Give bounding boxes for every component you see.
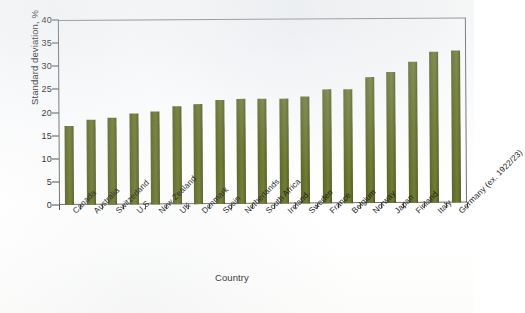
y-tick-label: 10 bbox=[26, 154, 52, 164]
bar-slot bbox=[251, 19, 274, 204]
bar-slot bbox=[358, 18, 381, 203]
bar-slot bbox=[401, 18, 424, 203]
bar-slot bbox=[273, 19, 296, 204]
bar bbox=[387, 72, 397, 203]
bar-slot bbox=[423, 18, 446, 203]
bar bbox=[65, 126, 74, 205]
bar-series bbox=[58, 18, 467, 205]
x-tick-label: Germany (ex. 1922/23) bbox=[457, 148, 524, 215]
bar-slot bbox=[337, 18, 360, 203]
bar-slot bbox=[208, 19, 231, 204]
y-tick-label: 20 bbox=[26, 108, 52, 118]
y-tick-label: 5 bbox=[26, 177, 52, 187]
bar-slot bbox=[230, 19, 253, 204]
bar bbox=[365, 77, 375, 203]
x-axis-tick-labels: CanadaAustraliaSwitzerlandU.S.New Zealan… bbox=[59, 209, 474, 309]
bar-slot bbox=[316, 18, 339, 203]
bar-slot bbox=[79, 20, 102, 205]
y-axis-tick-labels: 0510152025303540 bbox=[22, 0, 52, 313]
bar-slot bbox=[294, 18, 317, 203]
bar-slot bbox=[165, 19, 188, 204]
bar-slot bbox=[444, 18, 467, 203]
y-tick-label: 40 bbox=[26, 15, 52, 25]
bar-slot bbox=[380, 18, 403, 203]
y-tick-label: 15 bbox=[26, 131, 52, 141]
bar bbox=[236, 99, 246, 204]
bar bbox=[429, 51, 439, 202]
y-tick-label: 25 bbox=[26, 84, 52, 94]
bar bbox=[301, 97, 311, 204]
bar bbox=[151, 111, 161, 204]
y-tick-label: 30 bbox=[26, 61, 52, 71]
y-tick-label: 0 bbox=[26, 200, 52, 210]
bar-slot bbox=[122, 19, 145, 204]
y-tick-label: 35 bbox=[26, 38, 52, 48]
x-axis-title: Country bbox=[215, 272, 249, 283]
bar bbox=[451, 51, 461, 203]
bar bbox=[408, 62, 418, 203]
bar-slot bbox=[144, 19, 167, 204]
y-tick-mark bbox=[52, 205, 59, 206]
bar bbox=[193, 104, 203, 204]
bar bbox=[344, 89, 354, 203]
bar-slot bbox=[101, 20, 124, 205]
bar-slot bbox=[58, 20, 81, 205]
bar bbox=[322, 90, 332, 204]
